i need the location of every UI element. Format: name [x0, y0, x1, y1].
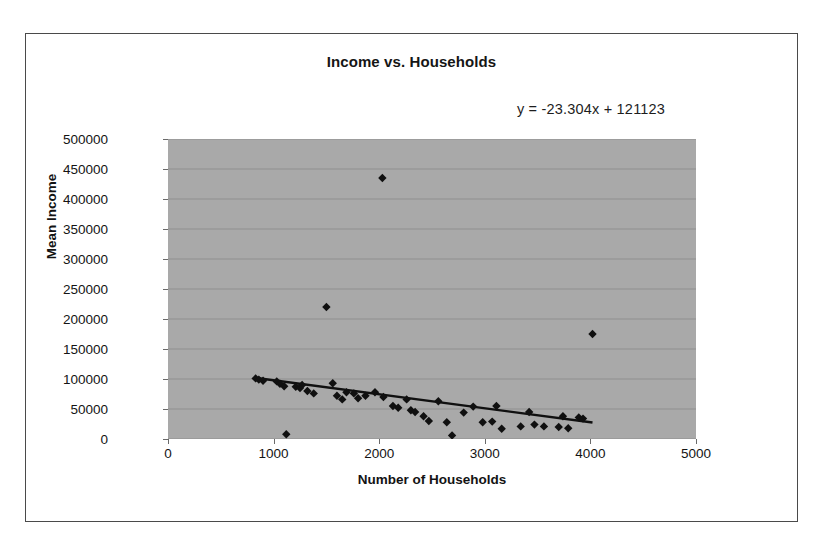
plot-area — [168, 139, 696, 439]
x-axis-title: Number of Households — [168, 472, 696, 487]
y-tick-mark — [163, 259, 168, 260]
data-point-marker — [322, 303, 330, 311]
chart-frame: Income vs. Households y = -23.304x + 121… — [25, 33, 798, 522]
y-tick-mark — [163, 199, 168, 200]
y-tick-mark — [163, 349, 168, 350]
data-point-marker — [469, 402, 477, 410]
gridlines — [168, 139, 696, 439]
y-tick-mark — [163, 289, 168, 290]
y-tick-mark — [163, 169, 168, 170]
data-point-marker — [378, 174, 386, 182]
y-tick-mark — [163, 379, 168, 380]
data-point-marker — [517, 422, 525, 430]
x-tick-mark — [485, 439, 486, 444]
data-point-marker — [329, 379, 337, 387]
data-point-marker — [443, 418, 451, 426]
x-tick-mark — [274, 439, 275, 444]
y-tick-mark — [163, 409, 168, 410]
data-point-marker — [488, 417, 496, 425]
data-point-marker — [530, 420, 538, 428]
trendline-equation-label: y = -23.304x + 121123 — [426, 101, 756, 117]
x-tick-label: 2000 — [339, 446, 419, 461]
y-tick-mark — [163, 229, 168, 230]
x-tick-mark — [168, 439, 169, 444]
x-tick-label: 3000 — [445, 446, 525, 461]
y-axis-title: Mean Income — [44, 117, 59, 317]
data-point-marker — [282, 430, 290, 438]
data-point-marker — [555, 423, 563, 431]
y-tick-label: 100000 — [0, 372, 108, 387]
plot-svg — [168, 139, 696, 439]
data-point-marker — [588, 330, 596, 338]
x-tick-mark — [379, 439, 380, 444]
x-tick-label: 4000 — [550, 446, 630, 461]
y-tick-mark — [163, 319, 168, 320]
x-tick-mark — [696, 439, 697, 444]
data-point-marker — [564, 424, 572, 432]
x-tick-label: 1000 — [234, 446, 314, 461]
data-point-marker — [459, 408, 467, 416]
x-tick-label: 0 — [128, 446, 208, 461]
data-point-marker — [497, 425, 505, 433]
data-point-marker — [478, 418, 486, 426]
y-tick-mark — [163, 139, 168, 140]
x-tick-mark — [590, 439, 591, 444]
y-tick-label: 150000 — [0, 342, 108, 357]
y-tick-label: 0 — [0, 432, 108, 447]
x-tick-label: 5000 — [656, 446, 736, 461]
data-point-marker — [434, 397, 442, 405]
y-tick-label: 50000 — [0, 402, 108, 417]
data-point-marker — [448, 431, 456, 439]
chart-title: Income vs. Households — [26, 53, 797, 70]
data-point-marker — [540, 422, 548, 430]
